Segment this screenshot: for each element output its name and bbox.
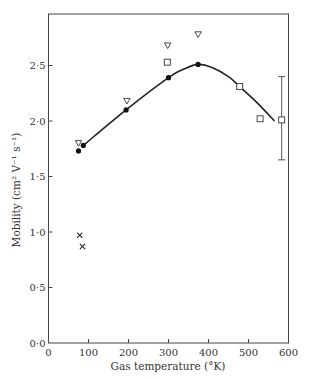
- open-square-marker: [164, 59, 170, 65]
- data-markers: [75, 32, 284, 249]
- x-axis-ticks: 0100200300400500600: [45, 339, 298, 358]
- fitted-curve: [83, 64, 274, 145]
- y-tick-label: 1·5: [30, 171, 46, 182]
- filled-circle-marker: [166, 75, 171, 80]
- open-triangle-marker: [195, 32, 201, 38]
- filled-circle-marker: [124, 107, 129, 112]
- y-axis-ticks: 0·00·51·01·52·02·5: [30, 60, 53, 349]
- x-tick-label: 300: [159, 347, 178, 358]
- x-tick-label: 100: [79, 347, 98, 358]
- open-triangle-marker: [165, 43, 171, 49]
- open-triangle-marker: [124, 98, 130, 104]
- open-square-marker: [237, 84, 243, 90]
- x-tick-label: 500: [239, 347, 258, 358]
- y-tick-label: 2·5: [30, 60, 46, 71]
- cross-marker: [77, 233, 82, 238]
- open-square-marker: [257, 116, 263, 122]
- y-tick-label: 1·0: [30, 227, 46, 238]
- filled-circle-marker: [196, 62, 201, 67]
- x-tick-label: 200: [119, 347, 138, 358]
- x-tick-label: 600: [279, 347, 298, 358]
- x-tick-label: 400: [199, 347, 218, 358]
- y-axis-title: Mobility (cm² V⁻¹ s⁻¹): [10, 133, 22, 248]
- filled-circle-marker: [76, 148, 81, 153]
- filled-circle-marker: [81, 143, 86, 148]
- mobility-chart: 0100200300400500600 0·00·51·01·52·02·5 G…: [0, 0, 310, 379]
- x-tick-label: 0: [45, 347, 51, 358]
- x-axis-title: Gas temperature (°K): [111, 360, 226, 372]
- y-tick-label: 2·0: [30, 116, 46, 127]
- cross-marker: [80, 244, 85, 249]
- y-tick-label: 0·0: [30, 338, 46, 349]
- open-square-marker: [279, 117, 285, 123]
- y-tick-label: 0·5: [30, 282, 46, 293]
